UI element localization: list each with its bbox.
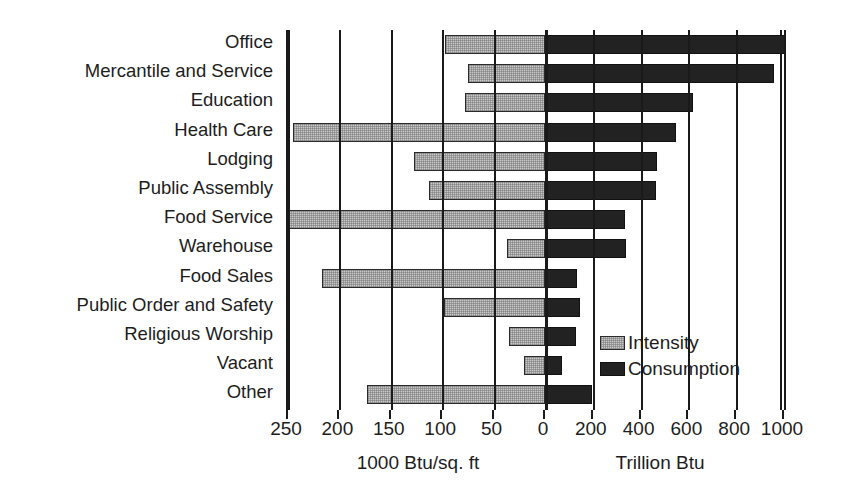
gridline-left-50 [494, 30, 496, 410]
legend-swatch-intensity-icon [600, 336, 625, 350]
category-label-food-service: Food Service [0, 202, 280, 231]
category-label-health-care: Health Care [0, 115, 280, 144]
bar-row [288, 234, 780, 263]
axis-tick-label: 1000 [761, 418, 803, 440]
bar-consumption [545, 181, 656, 200]
bar-consumption [545, 327, 576, 346]
gridline-left-100 [442, 30, 444, 410]
legend-label-intensity: Intensity [628, 332, 699, 354]
category-label-office: Office [0, 27, 280, 56]
bar-consumption [545, 64, 774, 83]
gridline-left-250 [288, 30, 290, 410]
axis-titles: 1000 Btu/sq. ft Trillion Btu [0, 452, 841, 482]
bar-row [288, 176, 780, 205]
gridline-left-200 [339, 30, 341, 410]
axis-tick-label: 800 [718, 418, 750, 440]
bar-row [288, 147, 780, 176]
bar-intensity [429, 181, 545, 200]
bar-intensity [367, 385, 545, 404]
category-axis-labels: Office Mercantile and Service Education … [0, 27, 280, 406]
axis-tick-label: 100 [424, 418, 456, 440]
bar-intensity [465, 93, 545, 112]
bar-consumption [545, 239, 626, 258]
axis-tick-label: 0 [538, 418, 549, 440]
gridline-left-150 [391, 30, 393, 410]
axis-tick-label: 200 [575, 418, 607, 440]
bar-row [288, 380, 780, 409]
bar-intensity [507, 239, 545, 258]
energy-intensity-consumption-chart: Office Mercantile and Service Education … [0, 0, 841, 501]
bar-intensity [524, 356, 545, 375]
bar-consumption [545, 356, 562, 375]
bar-consumption [545, 93, 693, 112]
bar-intensity [293, 123, 545, 142]
bar-intensity [322, 269, 545, 288]
gridline-zero [545, 30, 548, 410]
legend-item-consumption: Consumption [600, 356, 740, 382]
bar-consumption [545, 35, 785, 54]
bar-consumption [545, 298, 580, 317]
axis-tick-label: 150 [373, 418, 405, 440]
axis-tick-label: 600 [671, 418, 703, 440]
axis-tick-label: 250 [270, 418, 302, 440]
bar-row [288, 118, 780, 147]
bar-consumption [545, 210, 625, 229]
bar-row [288, 59, 780, 88]
category-label-vacant: Vacant [0, 348, 280, 377]
bar-row [288, 264, 780, 293]
bar-row [288, 205, 780, 234]
axis-tick-labels: 2502001501005002004006008001000 [0, 418, 841, 444]
category-label-mercantile-and-service: Mercantile and Service [0, 56, 280, 85]
bar-row [288, 88, 780, 117]
axis-tick-label: 50 [481, 418, 502, 440]
legend-item-intensity: Intensity [600, 330, 740, 356]
gridline-right-200 [593, 30, 595, 410]
legend-swatch-consumption-icon [600, 362, 625, 376]
legend-label-consumption: Consumption [628, 358, 740, 380]
category-label-other: Other [0, 377, 280, 406]
legend: Intensity Consumption [600, 330, 740, 382]
category-label-food-sales: Food Sales [0, 261, 280, 290]
category-label-public-assembly: Public Assembly [0, 173, 280, 202]
category-label-education: Education [0, 85, 280, 114]
category-label-warehouse: Warehouse [0, 231, 280, 260]
category-label-public-order-and-safety: Public Order and Safety [0, 290, 280, 319]
gridline-right-1000 [784, 30, 786, 410]
bar-consumption [545, 269, 577, 288]
bar-row [288, 30, 780, 59]
bar-intensity [288, 210, 545, 229]
bar-intensity [468, 64, 545, 83]
left-axis-title: 1000 Btu/sq. ft [357, 452, 480, 474]
right-axis-title: Trillion Btu [615, 452, 704, 474]
bar-intensity [509, 327, 545, 346]
bar-intensity [414, 152, 545, 171]
bar-row [288, 293, 780, 322]
bar-consumption [545, 385, 592, 404]
axis-tick-label: 400 [623, 418, 655, 440]
category-label-lodging: Lodging [0, 144, 280, 173]
category-label-religious-worship: Religious Worship [0, 319, 280, 348]
axis-tick-label: 200 [322, 418, 354, 440]
bar-consumption [545, 123, 676, 142]
